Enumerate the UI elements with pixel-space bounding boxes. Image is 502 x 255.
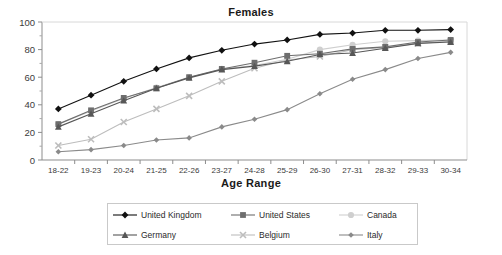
- data-point-marker: [382, 67, 388, 73]
- data-point-marker: [88, 147, 94, 153]
- legend-item-belgium[interactable]: Belgium: [230, 229, 338, 241]
- data-point-marker: [350, 76, 356, 82]
- data-point-marker: [382, 38, 388, 44]
- data-series: [55, 39, 454, 130]
- data-point-marker: [251, 41, 258, 48]
- x-axis: 18-2219-2320-2421-2522-2623-2724-2825-29…: [42, 160, 467, 175]
- y-axis-tick-label: 60: [24, 72, 35, 83]
- data-point-marker: [153, 66, 160, 73]
- data-point-marker: [348, 212, 354, 218]
- data-point-marker: [120, 78, 127, 85]
- data-point-marker: [186, 93, 192, 99]
- data-point-marker: [447, 26, 454, 33]
- data-point-marker: [252, 116, 258, 122]
- legend-item-united-states[interactable]: United States: [230, 209, 338, 221]
- x-axis-tick-label: 28-32: [375, 166, 396, 175]
- data-point-marker: [349, 30, 356, 37]
- x-axis-tick-label: 26-30: [310, 166, 331, 175]
- data-point-marker: [317, 91, 323, 97]
- x-axis-tick-label: 22-26: [179, 166, 200, 175]
- legend-item-germany[interactable]: Germany: [112, 229, 230, 241]
- x-axis-tick-label: 21-25: [146, 166, 167, 175]
- data-point-marker: [154, 137, 160, 143]
- x-axis-tick-label: 18-22: [48, 166, 69, 175]
- data-point-marker: [55, 106, 62, 113]
- data-point-marker: [382, 27, 389, 34]
- data-point-marker: [284, 107, 290, 113]
- data-point-marker: [153, 106, 159, 112]
- x-axis-title: Age Range: [0, 177, 502, 189]
- x-axis-tick-label: 20-24: [113, 166, 134, 175]
- data-point-marker: [219, 124, 225, 130]
- x-axis-tick-label: 24-28: [244, 166, 265, 175]
- y-axis-tick-label: 80: [24, 44, 35, 55]
- y-axis-tick-label: 100: [19, 17, 35, 28]
- x-axis-tick-label: 27-31: [342, 166, 363, 175]
- x-axis-tick-label: 19-23: [81, 166, 102, 175]
- legend-marker-icon: [230, 209, 256, 221]
- legend-label: Canada: [367, 211, 397, 220]
- legend-label: Belgium: [259, 231, 290, 240]
- data-series: [55, 37, 454, 127]
- chart-legend: United KingdomUnited StatesCanadaGermany…: [107, 203, 418, 245]
- legend-label: United Kingdom: [141, 211, 201, 220]
- legend-item-italy[interactable]: Italy: [338, 229, 423, 241]
- data-point-marker: [415, 27, 422, 34]
- data-point-marker: [415, 56, 421, 62]
- data-point-marker: [121, 143, 127, 149]
- data-series: [55, 38, 453, 148]
- y-axis-tick-label: 40: [24, 99, 35, 110]
- legend-label: United States: [259, 211, 310, 220]
- chart-container: Females 020406080100 18-2219-2320-2421-2…: [0, 0, 502, 255]
- y-axis-tick-label: 0: [30, 155, 35, 166]
- data-point-marker: [56, 149, 62, 155]
- legend-marker-icon: [338, 209, 364, 221]
- data-series: [55, 37, 453, 127]
- data-point-marker: [122, 212, 129, 219]
- legend-marker-icon: [338, 229, 364, 241]
- data-point-marker: [121, 119, 127, 125]
- legend-label: Germany: [141, 231, 176, 240]
- data-series-group: [55, 26, 454, 154]
- legend-item-united-kingdom[interactable]: United Kingdom: [112, 209, 230, 221]
- data-point-marker: [448, 50, 454, 56]
- data-point-marker: [88, 92, 95, 99]
- y-axis: 020406080100: [19, 17, 467, 166]
- chart-plot-area: 020406080100 18-2219-2320-2421-2522-2623…: [0, 0, 502, 200]
- legend-item-canada[interactable]: Canada: [338, 209, 423, 221]
- y-axis-tick-label: 20: [24, 127, 35, 138]
- data-point-marker: [348, 232, 354, 238]
- legend-marker-icon: [230, 229, 256, 241]
- legend-marker-icon: [112, 229, 138, 241]
- x-axis-tick-label: 29-33: [408, 166, 429, 175]
- data-point-marker: [284, 37, 291, 44]
- x-axis-tick-label: 23-27: [212, 166, 233, 175]
- data-point-marker: [186, 54, 193, 61]
- data-point-marker: [316, 31, 323, 38]
- legend-label: Italy: [367, 231, 383, 240]
- legend-marker-icon: [112, 209, 138, 221]
- data-point-marker: [240, 212, 246, 218]
- data-point-marker: [218, 47, 225, 54]
- data-point-marker: [186, 135, 192, 141]
- x-axis-tick-label: 30-34: [440, 166, 461, 175]
- x-axis-tick-label: 25-29: [277, 166, 298, 175]
- data-point-marker: [219, 78, 225, 84]
